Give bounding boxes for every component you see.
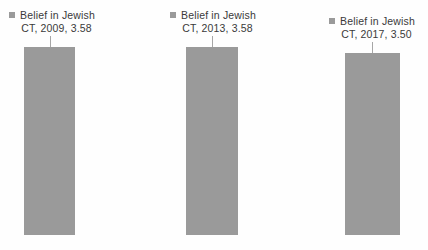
data-label-2013: Belief in Jewish CT, 2013, 3.58 <box>161 9 265 34</box>
data-label-2017-line2: CT, 2017, 3.50 <box>320 28 424 41</box>
data-label-2013-text1: Belief in Jewish <box>181 9 256 22</box>
data-label-2013-line1: Belief in Jewish <box>161 9 265 22</box>
data-label-2009: Belief in Jewish CT, 2009, 3.58 <box>0 9 104 34</box>
data-label-2009-line2: CT, 2009, 3.58 <box>0 22 104 35</box>
leader-line-2009 <box>50 36 51 47</box>
data-label-2017-text1: Belief in Jewish <box>340 15 415 28</box>
data-label-2009-text1: Belief in Jewish <box>20 9 95 22</box>
bar-2017 <box>345 53 400 235</box>
legend-swatch-icon <box>329 18 335 24</box>
legend-swatch-icon <box>9 12 15 18</box>
data-label-2013-line2: CT, 2013, 3.58 <box>161 22 265 35</box>
data-label-2009-line1: Belief in Jewish <box>0 9 104 22</box>
data-label-2017-line1: Belief in Jewish <box>320 15 424 28</box>
legend-swatch-icon <box>170 12 176 18</box>
bar-2009 <box>24 47 75 235</box>
bar-chart: Belief in Jewish CT, 2009, 3.58 Belief i… <box>0 0 428 250</box>
leader-line-2017 <box>372 42 373 53</box>
data-label-2017: Belief in Jewish CT, 2017, 3.50 <box>320 15 424 40</box>
leader-line-2013 <box>212 36 213 47</box>
bar-2013 <box>186 47 238 235</box>
